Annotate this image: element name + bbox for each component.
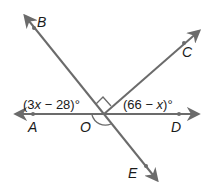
point-b <box>32 26 36 30</box>
label-d: D <box>171 119 181 135</box>
point-e <box>144 164 148 168</box>
right-angle-marker <box>96 97 111 106</box>
label-c: C <box>182 44 193 60</box>
label-e: E <box>128 165 138 181</box>
angle-label-aob: (3x − 28)° <box>23 97 80 112</box>
point-a <box>31 112 35 116</box>
label-o: O <box>80 119 91 135</box>
label-b: B <box>37 14 46 30</box>
angle-label-cod: (66 − x)° <box>123 97 173 112</box>
angle-diagram: B C A O D E (3x − 28)° (66 − x)° <box>0 0 209 193</box>
label-a: A <box>27 119 37 135</box>
point-d <box>177 112 181 116</box>
